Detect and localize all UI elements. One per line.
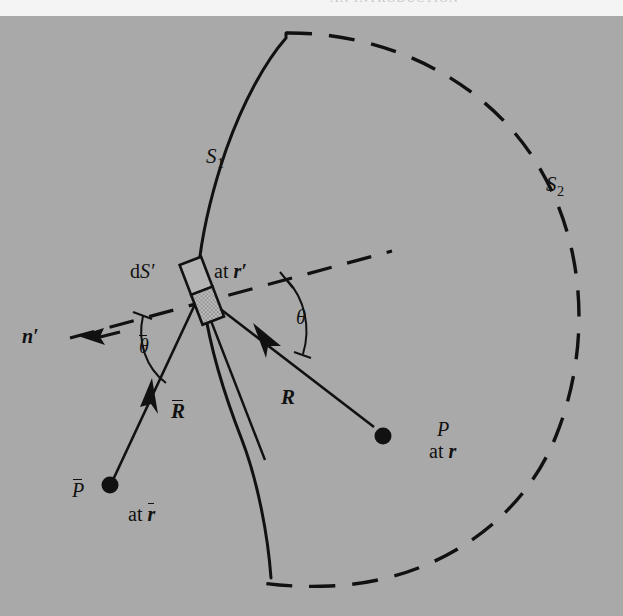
label-vector-R-bar-text: R (171, 401, 185, 422)
label-at-word-3: at (128, 503, 142, 525)
label-area-element-position: at r′ (214, 261, 247, 281)
label-point-P-position: at r (429, 441, 456, 461)
label-normal-n-prime: n′ (22, 326, 39, 346)
clipped-running-head: AN INTRODUCTION (330, 0, 459, 6)
label-vector-r-bar: r (147, 504, 155, 524)
label-surface-s1: S1 (206, 146, 224, 170)
label-area-element-d: d (130, 260, 140, 282)
label-angle-theta-bar-text: θ (139, 336, 149, 356)
diagram-plate: S1 S2 dS′ at r′ n′ θ θ R R P at r P (0, 16, 623, 616)
label-point-P: P (437, 419, 449, 439)
label-vector-r: r (448, 440, 456, 462)
label-point-P-bar: P (72, 480, 84, 500)
label-surface-s2: S2 (546, 174, 564, 198)
label-surface-s1-subscript: 1 (217, 155, 225, 171)
label-point-P-bar-text: P (72, 480, 84, 500)
normal-arrowhead (78, 328, 120, 345)
label-angle-theta: θ (296, 307, 306, 327)
label-at-word-2: at (429, 440, 443, 462)
label-surface-s2-subscript: 2 (557, 183, 565, 199)
label-vector-R: R (281, 387, 295, 408)
label-area-element-S: S′ (140, 260, 154, 282)
label-angle-theta-bar: θ (139, 336, 149, 356)
diagram-canvas (0, 16, 623, 616)
label-surface-s1-text: S (206, 144, 217, 168)
surface-s2-curve (262, 33, 579, 586)
point-Pbar-dot (102, 477, 119, 494)
label-surface-s2-text: S (546, 172, 557, 196)
label-at-word-1: at (214, 260, 228, 282)
label-vector-R-bar: R (171, 401, 185, 422)
label-point-P-bar-position: at r (128, 504, 155, 524)
point-P-dot (375, 428, 392, 445)
vector-Rbar-arrowhead (140, 378, 158, 414)
label-area-element: dS′ (130, 261, 154, 281)
figure-root: AN INTRODUCTION (0, 0, 623, 616)
label-vector-r-prime: r′ (233, 260, 246, 282)
page-header-strip: AN INTRODUCTION (0, 0, 623, 16)
